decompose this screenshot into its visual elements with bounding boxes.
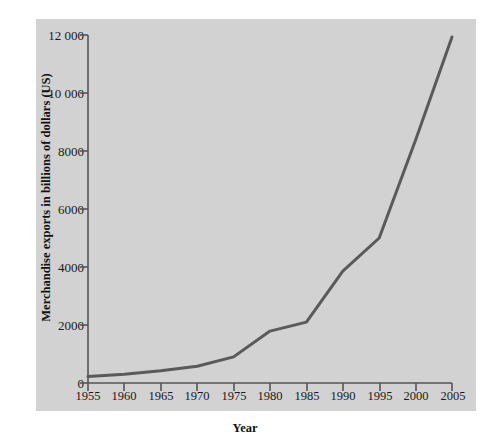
x-tick-marks xyxy=(88,383,452,391)
chart-plot-area xyxy=(0,0,490,445)
data-series-line xyxy=(88,37,452,377)
y-tick-marks xyxy=(80,35,88,383)
x-axis-title: Year xyxy=(0,421,490,436)
chart-page: Merchandise exports in billions of dolla… xyxy=(0,0,490,445)
